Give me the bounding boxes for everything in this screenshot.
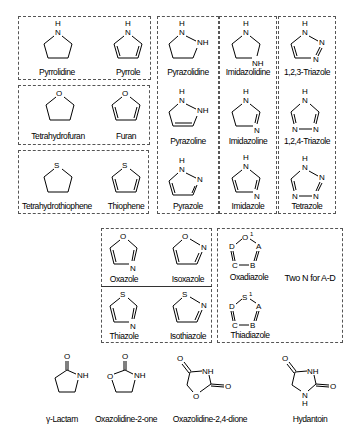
svg-text:N: N [313, 55, 319, 64]
azole-divider [101, 286, 212, 287]
svg-text:NH: NH [197, 38, 209, 47]
svg-text:B: B [250, 261, 255, 270]
label-tetrahydrofuran: Tetrahydrofuran [31, 131, 85, 141]
svg-text:N: N [292, 125, 298, 134]
label-isothiazole: Isothiazole [170, 331, 206, 341]
svg-text:C: C [232, 321, 238, 330]
pyrazole-structure: HNN [167, 155, 213, 199]
svg-text:H: H [179, 87, 185, 96]
label-pyrazoline: Pyrazoline [170, 136, 206, 146]
svg-text:H: H [243, 19, 249, 28]
svg-text:N: N [243, 28, 249, 37]
label-diazole-note: Two N for A-D [285, 273, 336, 283]
svg-text:H: H [179, 19, 185, 28]
pyrazolidine-structure: HNNH [167, 18, 213, 64]
svg-text:N: N [130, 264, 136, 273]
svg-text:NH: NH [307, 367, 319, 376]
svg-text:N: N [254, 192, 260, 201]
svg-text:H: H [179, 156, 185, 165]
label-imidazole: Imidazole [232, 201, 265, 211]
svg-text:N: N [313, 125, 319, 134]
pyrazoline-structure: HNNH [167, 86, 213, 132]
thiazole-structure: SN [104, 288, 148, 332]
tetrahydrothiophene-structure: S [38, 160, 78, 198]
svg-text:S: S [122, 161, 127, 170]
label-tetrahydrothiophene: Tetrahydrothiophene [22, 201, 92, 211]
svg-text:N: N [254, 126, 260, 135]
svg-text:H: H [302, 399, 308, 408]
triazole-124-structure: HNNN [287, 86, 331, 134]
svg-text:N: N [179, 165, 185, 174]
svg-text:H: H [55, 19, 61, 28]
svg-text:NH: NH [134, 371, 146, 380]
svg-text:O: O [64, 352, 70, 361]
tetrazole-structure: HNNNN [287, 153, 331, 201]
imidazole-structure: HNN [228, 152, 272, 202]
svg-text:N: N [302, 96, 308, 105]
svg-text:O: O [330, 382, 336, 391]
svg-text:N: N [292, 192, 298, 201]
svg-text:H: H [302, 154, 308, 163]
triazole-123-structure: HNNN [287, 18, 331, 64]
label-pyrazole: Pyrazole [173, 201, 203, 211]
label-oxazolidine-2-one: Oxazolidine-2-one [95, 414, 157, 424]
isothiazole-structure: SN [170, 288, 214, 332]
svg-text:N: N [243, 162, 249, 171]
hydantoin-structure: ONHO NH [280, 352, 342, 408]
tetrahydrofuran-structure: O [40, 88, 80, 126]
svg-text:O: O [120, 232, 126, 241]
oxadiazole-structure: O1 DA CB [225, 230, 269, 274]
label-thiazole: Thiazole [110, 331, 139, 341]
svg-text:N: N [197, 175, 203, 184]
label-isoxazole: Isoxazole [172, 274, 204, 284]
svg-text:N: N [55, 28, 61, 37]
svg-text:A: A [256, 242, 262, 251]
label-oxazolidine-2-4-dione: Oxazolidine-2,4-dione [173, 414, 247, 424]
svg-text:O: O [107, 372, 113, 381]
label-hydantoin: Hydantoin [293, 414, 328, 424]
svg-text:O: O [225, 382, 231, 391]
imidazoline-structure: HNN [228, 86, 272, 136]
svg-text:N: N [179, 96, 185, 105]
svg-text:N: N [201, 243, 207, 252]
svg-text:O: O [177, 354, 183, 363]
oxazolidine-2-4-dione-structure: ONHOO [175, 352, 237, 402]
label-oxadiazole: Oxadiazole [230, 272, 269, 282]
svg-text:N: N [130, 322, 136, 331]
label-pyrrole: Pyrrole [116, 67, 140, 77]
svg-text:O: O [122, 89, 128, 98]
svg-text:N: N [302, 163, 308, 172]
svg-text:S: S [242, 293, 247, 302]
svg-text:S: S [54, 161, 59, 170]
pyrrole-structure: HN [108, 18, 148, 64]
svg-text:O: O [242, 233, 248, 242]
pyrrolidine-structure: H N [38, 18, 78, 64]
svg-text:NH: NH [77, 371, 89, 380]
svg-text:N: N [201, 301, 207, 310]
label-imidazoline: Imidazoline [229, 136, 268, 146]
oxazolidine-2-one-structure: OONH [102, 350, 152, 400]
label-triazole-124: 1,2,4-Triazole [284, 136, 330, 146]
oxazole-structure: ON [104, 230, 148, 274]
label-thiophene: Thiophene [108, 201, 145, 211]
svg-text:O: O [56, 89, 62, 98]
svg-text:N: N [243, 96, 249, 105]
svg-text:N: N [319, 38, 325, 47]
svg-text:N: N [319, 173, 325, 182]
label-triazole-123: 1,2,3-Triazole [284, 67, 330, 77]
svg-text:C: C [232, 261, 238, 270]
svg-text:O: O [122, 352, 128, 361]
svg-text:S: S [120, 290, 125, 299]
svg-text:D: D [229, 242, 235, 251]
svg-text:H: H [302, 87, 308, 96]
svg-text:1: 1 [249, 291, 253, 297]
label-pyrrolidine: Pyrrolidine [39, 67, 75, 77]
label-tetrazole: Tetrazole [292, 201, 323, 211]
isoxazole-structure: ON [170, 230, 214, 274]
svg-text:NH: NH [202, 367, 214, 376]
label-gamma-lactam: γ-Lactam [46, 414, 78, 424]
svg-text:NH: NH [197, 106, 209, 115]
svg-text:H: H [243, 87, 249, 96]
svg-text:D: D [229, 302, 235, 311]
svg-text:O: O [193, 392, 199, 401]
